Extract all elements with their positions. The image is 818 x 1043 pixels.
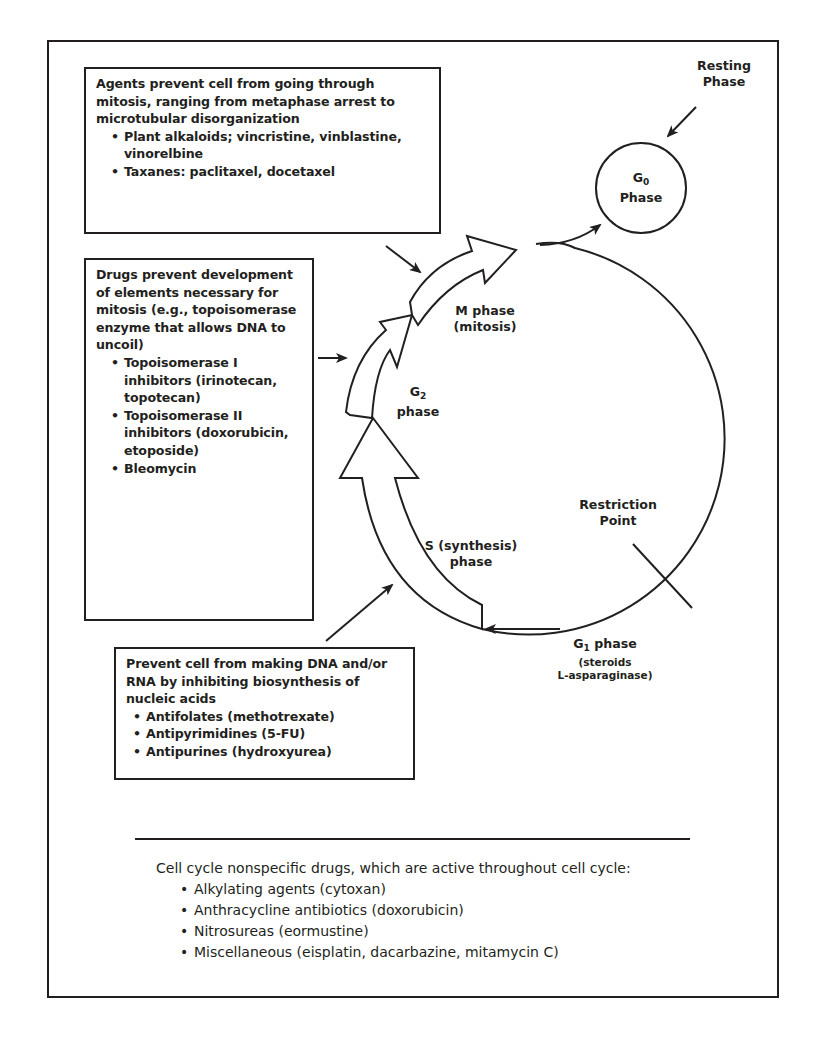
restriction-line1: Restriction	[568, 497, 668, 513]
topo-box-intro: Drugs prevent development of elements ne…	[96, 266, 302, 354]
s-phase-line1: S (synthesis)	[416, 538, 526, 554]
restriction-point-label: Restriction Point	[568, 497, 668, 529]
resting-arrow	[668, 107, 696, 136]
list-item: Antipyrimidines (5-FU)	[126, 725, 403, 743]
nonspecific-list: Alkylating agents (cytoxan) Anthracyclin…	[156, 879, 631, 963]
g1-note-line2: L-asparaginase)	[545, 669, 665, 682]
g1-word: phase	[590, 636, 637, 651]
list-item: Antipurines (hydroxyurea)	[126, 743, 403, 761]
g2-label-line1: G2	[388, 384, 448, 404]
g1-note-line1: (steroids	[545, 656, 665, 669]
list-item: Antifolates (methotrexate)	[126, 708, 403, 726]
s-phase-label: S (synthesis) phase	[416, 538, 526, 570]
g1-phase-label: G1 phase (steroids L-asparaginase)	[545, 636, 665, 682]
g2-subscript: 2	[420, 391, 426, 401]
resting-label-line2: Phase	[684, 74, 764, 90]
g2-letter: G	[410, 384, 420, 399]
g2-label-line2: phase	[388, 404, 448, 420]
list-item: Bleomycin	[104, 460, 302, 478]
g0-phase-label: G0 Phase	[606, 170, 676, 206]
cycle-circle-arc	[482, 243, 725, 635]
list-item: Topoisomerase I inhibitors (irinotecan, …	[104, 354, 302, 407]
g1-letter: G	[573, 636, 583, 651]
topoisomerase-inhibitors-box: Drugs prevent development of elements ne…	[84, 258, 314, 621]
list-item: Topoisomerase II inhibitors (doxorubicin…	[104, 407, 302, 460]
resting-label-line1: Resting	[684, 58, 764, 74]
mitosis-box-list: Plant alkaloids; vincristine, vinblastin…	[104, 128, 429, 181]
g0-letter: G	[633, 170, 643, 185]
resting-phase-label: Resting Phase	[684, 58, 764, 90]
g0-label-line1: G0	[606, 170, 676, 190]
dna-box-list: Antifolates (methotrexate) Antipyrimidin…	[126, 708, 403, 761]
nonspecific-drugs-section: Cell cycle nonspecific drugs, which are …	[156, 858, 631, 963]
list-item: Miscellaneous (eisplatin, dacarbazine, m…	[180, 942, 631, 963]
dna-synthesis-inhibitors-box: Prevent cell from making DNA and/or RNA …	[114, 647, 415, 780]
m-phase-line1: M phase	[440, 303, 530, 319]
topo-box-list: Topoisomerase I inhibitors (irinotecan, …	[104, 354, 302, 477]
list-item: Taxanes: paclitaxel, docetaxel	[104, 163, 429, 181]
list-item: Nitrosureas (eormustine)	[180, 921, 631, 942]
list-item: Plant alkaloids; vincristine, vinblastin…	[104, 128, 429, 163]
mitosis-inhibitors-box: Agents prevent cell from going through m…	[84, 67, 441, 234]
m-phase-label: M phase (mitosis)	[440, 303, 530, 335]
nonspecific-intro: Cell cycle nonspecific drugs, which are …	[156, 858, 631, 879]
g2-phase-label: G2 phase	[388, 384, 448, 420]
mitosis-box-intro: Agents prevent cell from going through m…	[96, 75, 429, 128]
section-divider	[135, 838, 690, 840]
list-item: Anthracycline antibiotics (doxorubicin)	[180, 900, 631, 921]
dna-box-arrow	[326, 585, 392, 641]
g0-label-line2: Phase	[606, 190, 676, 206]
restriction-line2: Point	[568, 513, 668, 529]
dna-box-intro: Prevent cell from making DNA and/or RNA …	[126, 655, 403, 708]
mitosis-box-arrow	[386, 246, 420, 272]
m-phase-line2: (mitosis)	[440, 319, 530, 335]
list-item: Alkylating agents (cytoxan)	[180, 879, 631, 900]
g0-subscript: 0	[643, 177, 649, 187]
s-phase-line2: phase	[416, 554, 526, 570]
g1-label-line1: G1 phase	[545, 636, 665, 656]
s-phase-arrow	[340, 418, 482, 629]
